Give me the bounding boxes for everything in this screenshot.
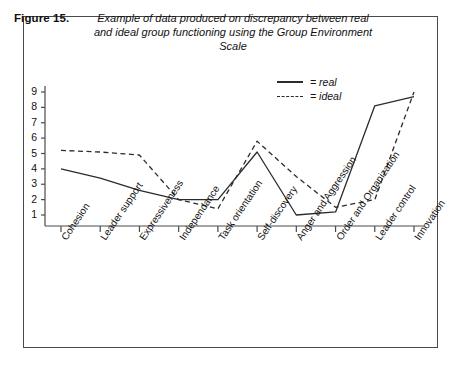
legend-item-ideal: = ideal [277, 89, 341, 103]
legend-label-ideal: = ideal [310, 90, 341, 102]
solid-line-icon [277, 81, 303, 83]
y-axis-tick-label: 9 [21, 85, 37, 97]
y-axis-tick-label: 4 [21, 162, 37, 174]
y-axis-tick-label: 3 [21, 177, 37, 189]
chart-legend: = real = ideal [277, 75, 341, 103]
figure-title: Example of data produced on discrepancy … [88, 11, 378, 54]
legend-item-real: = real [277, 75, 341, 89]
dashed-line-icon [277, 96, 303, 97]
y-axis-tick-label: 5 [21, 147, 37, 159]
y-axis-tick-label: 2 [21, 193, 37, 205]
y-axis-tick-label: 8 [21, 100, 37, 112]
y-axis-tick-label: 6 [21, 131, 37, 143]
y-axis-tick-label: 7 [21, 116, 37, 128]
figure-number: Figure 15. [14, 12, 69, 24]
y-axis-tick-label: 1 [21, 208, 37, 220]
legend-label-real: = real [310, 76, 337, 88]
